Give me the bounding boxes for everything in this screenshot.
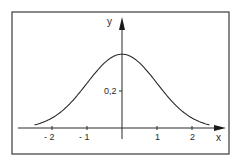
y-axis-label: y: [107, 16, 112, 27]
x-axis-label: x: [216, 132, 221, 143]
x-tick-label: 2: [190, 132, 195, 142]
x-tick-label: - 2: [44, 132, 55, 142]
ticks: - 2- 1120,2: [44, 86, 195, 142]
y-tick-label: 0,2: [104, 86, 117, 96]
x-tick-label: 1: [155, 132, 160, 142]
x-axis-arrow-icon: [214, 125, 226, 131]
y-axis-arrow-icon: [119, 17, 125, 30]
x-tick-label: - 1: [79, 132, 90, 142]
axes: x y: [18, 16, 226, 143]
chart: x y - 2- 1120,2: [0, 0, 241, 167]
